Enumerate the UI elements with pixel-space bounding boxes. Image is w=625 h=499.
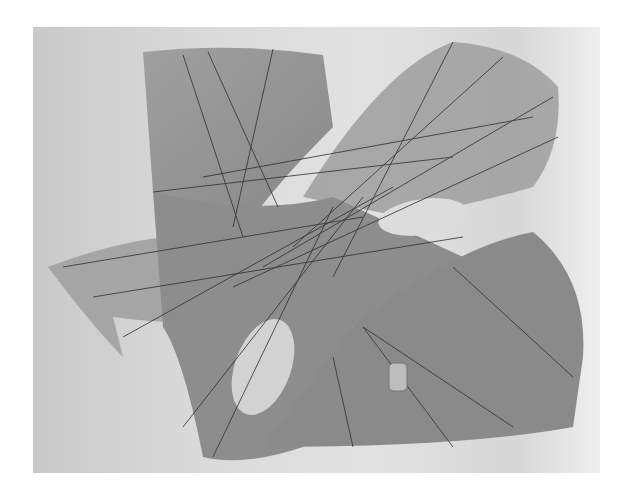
label-tag <box>389 363 407 391</box>
sculpture-illustration <box>33 27 600 473</box>
sculpture-photo <box>33 27 600 473</box>
